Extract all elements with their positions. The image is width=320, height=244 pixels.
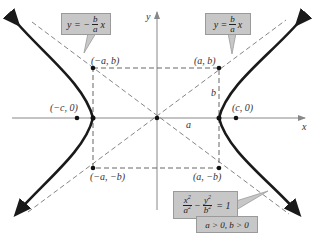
focus-left xyxy=(75,116,80,121)
label-left-top: (−a, b) xyxy=(91,56,119,66)
x-axis-label: x xyxy=(302,122,306,132)
asym-right-num: b xyxy=(229,15,236,25)
asym-right-suffix: x xyxy=(238,19,242,30)
point-left-top xyxy=(91,66,96,71)
origin-point xyxy=(155,116,160,121)
label-a: a xyxy=(186,120,191,130)
callout-pointer-right xyxy=(228,33,236,54)
eq-minus: − xyxy=(194,200,201,211)
eq-exp-3: 2 xyxy=(208,194,211,200)
label-b: b xyxy=(211,88,216,98)
callout-asymptote-positive: y = b a x xyxy=(205,13,251,35)
callout-asymptote-negative: y = − b a x xyxy=(61,13,111,35)
point-right-top xyxy=(217,66,222,71)
eq-exp-2: 2 xyxy=(188,204,191,210)
label-right-bottom: (a, −b) xyxy=(193,172,221,182)
label-right-top: (a, b) xyxy=(194,56,216,66)
callout-pointer-left xyxy=(84,33,96,53)
condition-text: a > 0, b > 0 xyxy=(205,220,249,230)
asym-left-den: a xyxy=(92,25,99,34)
asym-left-num: b xyxy=(92,15,99,25)
point-right-bottom xyxy=(217,166,222,171)
asym-right-prefix: y = xyxy=(214,19,228,30)
callout-pointer-equation xyxy=(236,191,268,210)
eq-term2: y2 b2 xyxy=(203,196,213,215)
asym-right-fraction: b a xyxy=(229,15,236,34)
condition-box: a > 0, b > 0 xyxy=(196,216,258,233)
y-axis-label: y xyxy=(146,12,150,22)
focus-right xyxy=(234,116,239,121)
vertex-right xyxy=(217,116,222,121)
eq-term1: x2 a2 xyxy=(183,196,193,215)
vertex-left xyxy=(91,116,96,121)
asym-left-suffix: x xyxy=(100,19,104,30)
label-left-bottom: (−a, −b) xyxy=(90,172,125,182)
eq-exp-1: 2 xyxy=(188,194,191,200)
label-focus-left: (−c, 0) xyxy=(50,103,78,113)
callout-equation: x2 a2 − y2 b2 = 1 xyxy=(173,191,238,219)
label-focus-right: (c, 0) xyxy=(232,103,253,113)
asym-right-den: a xyxy=(229,25,236,34)
eq-exp-4: 2 xyxy=(208,204,211,210)
eq-rhs: = 1 xyxy=(216,200,230,211)
asym-left-prefix: y = − xyxy=(67,19,90,30)
asym-left-fraction: b a xyxy=(92,15,99,34)
hyperbola-diagram xyxy=(0,0,320,244)
point-left-bottom xyxy=(91,166,96,171)
